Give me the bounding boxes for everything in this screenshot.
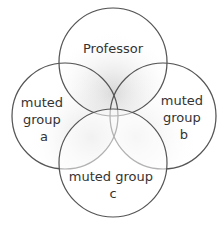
label-professor: Professor [83,41,144,56]
venn-diagram: Professor muted group a muted group b mu… [0,0,222,225]
